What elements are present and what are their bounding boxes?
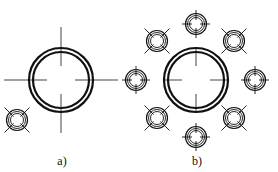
x-cross-ring-icon: [222, 106, 247, 131]
center-crosshair: [4, 27, 118, 133]
crosshair-ring-icon: [182, 10, 210, 38]
x-cross-ring-icon: [145, 29, 170, 54]
crosshair-ring-icon: [182, 123, 210, 151]
panel-a-label: a): [57, 155, 66, 167]
x-cross-ring-icon: [145, 106, 170, 131]
crosshair-ring-icon: [122, 66, 150, 94]
panel-b-label: b): [192, 155, 202, 167]
x-cross-ring-icon: [222, 29, 247, 54]
x-cross-ring-icon: [5, 108, 30, 133]
diagram-canvas: [0, 0, 278, 172]
panel-a: [4, 27, 118, 133]
panel-b: [122, 10, 269, 151]
crosshair-ring-icon: [241, 66, 269, 94]
